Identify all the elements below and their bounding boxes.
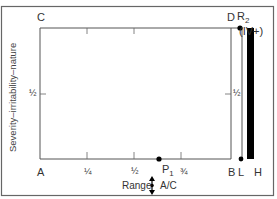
corner-label-b: B: [228, 167, 235, 178]
limit-label: L: [238, 167, 244, 178]
x-tick-label-quarter: ¼: [84, 167, 92, 176]
r2-suffix: (IV+): [239, 25, 263, 37]
r2-label: R2 (IV+): [237, 11, 277, 37]
p1-point: [156, 156, 161, 161]
corner-label-c: C: [37, 12, 45, 23]
right-tick-label-half: ½: [233, 89, 241, 98]
corner-label-d: D: [227, 12, 235, 23]
l-point: [239, 157, 244, 162]
r2-subscript: 2: [245, 16, 249, 25]
plot-box: [40, 28, 231, 159]
y-tick-label-half: ½: [29, 89, 37, 98]
x-axis-label-suffix: A/C: [160, 181, 177, 190]
y-axis-label: Severity–irritability–nature: [7, 43, 18, 152]
x-axis-label: Range: [122, 181, 151, 190]
corner-label-a: A: [37, 167, 44, 178]
x-tick-label-three-quarter: ¾: [180, 167, 188, 176]
hard-end-bar: [247, 28, 254, 159]
x-tick-label-half: ½: [131, 167, 139, 176]
p1-label: P1: [162, 164, 174, 179]
hard-label: H: [254, 167, 262, 178]
p1-subscript: 1: [169, 169, 173, 178]
r2-letter: R: [237, 10, 245, 22]
